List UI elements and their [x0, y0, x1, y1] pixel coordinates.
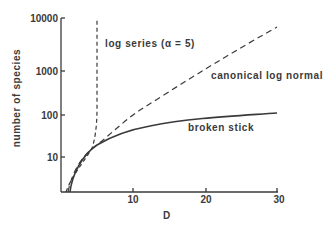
- label-canonical-log-normal: canonical log normal: [211, 70, 323, 81]
- species-abundance-chart: 10000 1000 100 10 10 20 30 D number of s…: [0, 0, 336, 228]
- y-axis-title: number of species: [11, 49, 22, 148]
- x-tick-label-10: 10: [127, 194, 139, 205]
- y-tick-label-1000: 1000: [36, 66, 59, 77]
- y-tick-label-100: 100: [41, 110, 58, 121]
- y-tick-label-10000: 10000: [30, 13, 58, 24]
- label-broken-stick: broken stick: [188, 122, 254, 133]
- series-log-series: [66, 18, 97, 192]
- x-tick-label-30: 30: [273, 194, 285, 205]
- x-tick-label-20: 20: [200, 194, 212, 205]
- series-canonical-log-normal: [68, 27, 277, 192]
- y-tick-label-10: 10: [47, 152, 59, 163]
- x-axis-title: D: [163, 210, 171, 221]
- label-log-series: log series (α = 5): [105, 38, 195, 49]
